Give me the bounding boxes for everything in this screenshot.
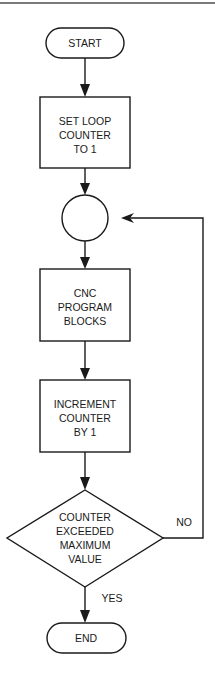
increment-line-1: INCREMENT [54,398,117,410]
arrow-start-to-set-counter [80,58,90,97]
set-counter-box: SET LOOP COUNTER TO 1 [40,97,130,168]
program-blocks-line-3: BLOCKS [64,315,107,327]
set-counter-line-1: SET LOOP [59,115,111,127]
program-blocks-line-1: CNC [74,287,97,299]
arrow-program-blocks-to-increment [80,341,90,380]
increment-line-2: COUNTER [59,412,111,424]
end-label: END [75,632,98,644]
decision-line-2: EXCEEDED [56,525,114,537]
decision-line-3: MAXIMUM [60,539,111,551]
arrow-connector-to-program-blocks [80,241,90,269]
arrow-decision-to-end [80,587,90,623]
start-terminal: START [46,28,124,58]
start-label: START [68,37,102,49]
end-terminal: END [47,623,126,653]
yes-label: YES [101,592,122,604]
connector-circle [62,195,108,241]
decision-line-4: VALUE [68,553,102,565]
increment-box: INCREMENT COUNTER BY 1 [40,380,130,452]
program-blocks-box: CNC PROGRAM BLOCKS [40,269,130,341]
flowchart: START SET LOOP COUNTER TO 1 CNC PROGRAM … [0,0,215,677]
arrow-set-counter-to-connector [80,168,90,195]
increment-line-3: BY 1 [74,426,97,438]
arrow-increment-to-decision [80,452,90,490]
program-blocks-line-2: PROGRAM [58,301,112,313]
set-counter-line-3: TO 1 [73,143,96,155]
decision-diamond: COUNTER EXCEEDED MAXIMUM VALUE [7,490,163,587]
set-counter-line-2: COUNTER [59,129,111,141]
loop-back-arrow [121,213,203,538]
decision-line-1: COUNTER [59,511,111,523]
no-label: NO [176,516,192,528]
